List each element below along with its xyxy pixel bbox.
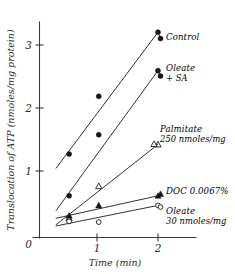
data-point-marker bbox=[96, 220, 101, 225]
annotation-marker bbox=[158, 205, 163, 210]
annotation-leader-lines bbox=[151, 32, 164, 209]
x-axis-title: Time (min) bbox=[89, 257, 142, 268]
series-layer bbox=[56, 30, 161, 226]
series-label-line1: DOC 0.0067% bbox=[166, 186, 229, 196]
series-label-line2: + SA bbox=[166, 73, 195, 83]
series-trend-line bbox=[56, 32, 158, 168]
series-group bbox=[56, 30, 160, 169]
series-label-doc-0-0067: DOC 0.0067% bbox=[166, 186, 229, 196]
y-axis-title: Translocation of ATP (nmoles/mg protein) bbox=[5, 29, 16, 231]
annotation-marker bbox=[151, 141, 157, 147]
series-label-oleate-sa: Oleate+ SA bbox=[166, 63, 195, 83]
data-point-marker bbox=[67, 193, 72, 198]
series-group bbox=[56, 68, 160, 210]
series-label-line1: Palmitate bbox=[160, 124, 226, 134]
data-point-marker bbox=[96, 202, 102, 208]
data-point-marker bbox=[96, 183, 102, 189]
data-point-marker bbox=[67, 152, 72, 157]
series-label-line2: 30 nmoles/mg bbox=[166, 216, 226, 226]
data-point-marker bbox=[96, 132, 101, 137]
x-ticklabel-1: 1 bbox=[94, 242, 101, 254]
y-ticklabel-0: 0 bbox=[25, 238, 32, 250]
y-ticklabel-3: 3 bbox=[25, 39, 32, 51]
series-label-control: Control bbox=[166, 32, 199, 42]
series-trend-line bbox=[56, 144, 158, 224]
series-label-oleate-30-nmoles-mg: Oleate30 nmoles/mg bbox=[166, 206, 226, 226]
series-label-line1: Oleate bbox=[166, 63, 195, 73]
series-group bbox=[56, 193, 161, 219]
annotation-marker bbox=[158, 74, 163, 79]
series-label-line1: Control bbox=[166, 32, 199, 42]
y-ticklabel-2: 2 bbox=[24, 102, 32, 114]
series-trend-line bbox=[56, 196, 158, 218]
chart-figure: 3 2 1 0 1 2 Time (min) Translocation of … bbox=[0, 0, 235, 274]
series-label-line1: Oleate bbox=[166, 206, 226, 216]
series-label-line2: 250 nmoles/mg bbox=[160, 134, 226, 144]
series-trend-line bbox=[56, 71, 158, 211]
series-label-palmitate-250-nmoles-mg: Palmitate250 nmoles/mg bbox=[160, 124, 226, 144]
data-point-marker bbox=[96, 94, 101, 99]
y-ticklabel-1: 1 bbox=[25, 165, 32, 177]
annotation-marker bbox=[158, 36, 163, 41]
data-point-marker bbox=[67, 219, 72, 224]
x-ticklabel-2: 2 bbox=[154, 242, 162, 254]
